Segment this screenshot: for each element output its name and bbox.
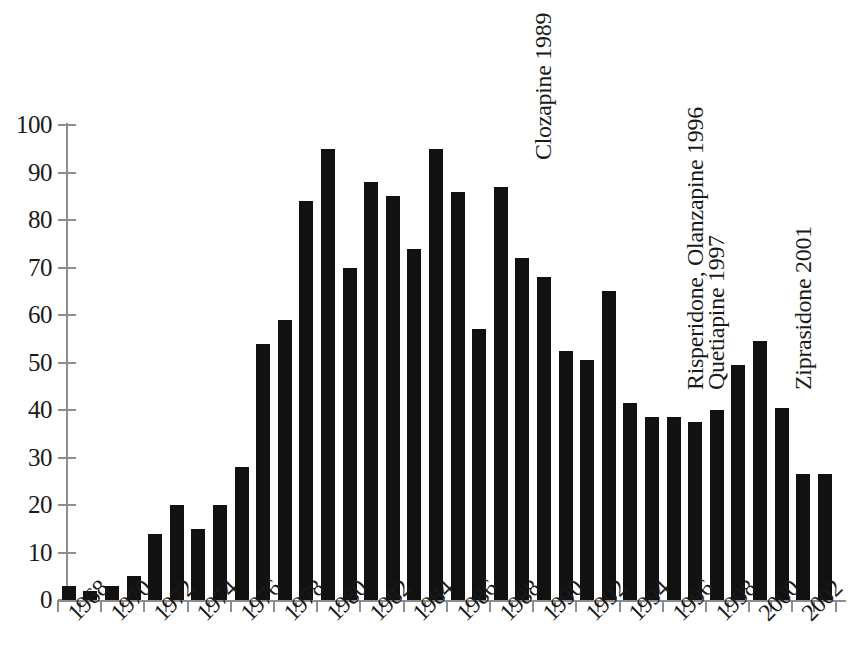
x-axis-tick [57, 600, 59, 612]
y-axis-tick-label: 0 [0, 587, 52, 612]
bar [407, 249, 421, 601]
bar [235, 467, 249, 600]
bar [775, 408, 789, 600]
bar [386, 196, 400, 600]
chart-annotation: Quetiapine 1997 [704, 235, 728, 390]
plot-area: 0102030405060708090100 19681970197219741… [0, 0, 850, 663]
bar [256, 344, 270, 601]
bar-chart: 0102030405060708090100 19681970197219741… [0, 0, 850, 663]
y-axis-tick-label: 70 [0, 255, 52, 280]
bar [364, 182, 378, 600]
y-axis-tick-label: 60 [0, 302, 52, 327]
bar [429, 149, 443, 600]
y-axis-tick-label: 50 [0, 350, 52, 375]
bar [321, 149, 335, 600]
bar [278, 320, 292, 600]
y-axis-tick [58, 409, 76, 411]
bar [688, 422, 702, 600]
bar [602, 291, 616, 600]
bar [710, 410, 724, 600]
y-axis-tick-label: 80 [0, 207, 52, 232]
bar [645, 417, 659, 600]
bar [559, 351, 573, 600]
chart-annotation: Ziprasidone 2001 [791, 226, 815, 390]
y-axis-tick-label: 40 [0, 397, 52, 422]
bar [796, 474, 810, 600]
bar [537, 277, 551, 600]
y-axis-tick [58, 267, 76, 269]
y-axis-tick [58, 457, 76, 459]
y-axis-tick [58, 219, 76, 221]
y-axis-tick-label: 20 [0, 492, 52, 517]
y-axis-tick-label: 30 [0, 445, 52, 470]
bar [515, 258, 529, 600]
bar [472, 329, 486, 600]
bar [623, 403, 637, 600]
bar [580, 360, 594, 600]
chart-annotation: Clozapine 1989 [531, 13, 555, 160]
bar [299, 201, 313, 600]
y-axis-tick [58, 172, 76, 174]
bar [667, 417, 681, 600]
y-axis-tick [58, 124, 76, 126]
bar [753, 341, 767, 600]
y-axis-tick [58, 362, 76, 364]
bar [343, 268, 357, 601]
bar [494, 187, 508, 600]
x-axis-tick-label: 1968 [63, 575, 112, 624]
y-axis-tick-label: 90 [0, 160, 52, 185]
y-axis-tick-label: 10 [0, 540, 52, 565]
bar [451, 192, 465, 601]
bar [731, 365, 745, 600]
y-axis-tick [58, 504, 76, 506]
y-axis-tick [58, 552, 76, 554]
y-axis-tick-label: 100 [0, 112, 52, 137]
y-axis-tick [58, 314, 76, 316]
